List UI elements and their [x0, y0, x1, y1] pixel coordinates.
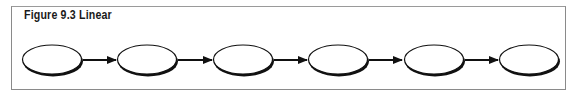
- linear-diagram: [0, 0, 581, 98]
- node-1: [23, 45, 84, 77]
- node-3: [214, 45, 275, 77]
- node-2: [118, 45, 179, 77]
- node-6: [500, 45, 561, 77]
- node-5: [405, 45, 466, 77]
- node-4: [309, 45, 370, 77]
